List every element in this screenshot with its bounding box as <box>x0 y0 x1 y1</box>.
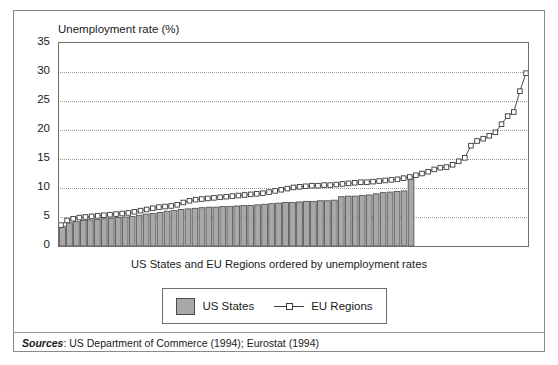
bar-us-state <box>373 194 379 246</box>
bar-us-state <box>297 202 303 246</box>
marker-eu-region <box>359 180 364 185</box>
marker-eu-region <box>273 189 278 194</box>
marker-eu-region <box>248 192 253 197</box>
chart-title: Unemployment rate (%) <box>58 23 179 35</box>
bar-us-state <box>192 208 198 246</box>
marker-eu-region <box>499 122 504 127</box>
bar-us-state <box>164 211 170 246</box>
bar-us-state <box>304 201 310 246</box>
bar-us-state <box>108 218 114 246</box>
bar-us-state <box>394 191 400 246</box>
chart-legend: US States EU Regions <box>162 288 387 324</box>
marker-eu-region <box>450 163 455 168</box>
marker-eu-region <box>346 181 351 186</box>
marker-eu-region <box>230 194 235 199</box>
y-tick-label: 0 <box>44 239 50 251</box>
y-tick-label: 30 <box>37 65 50 77</box>
marker-eu-region <box>352 180 357 185</box>
sources-label: Sources <box>22 337 63 349</box>
marker-eu-region <box>59 223 63 228</box>
bar-us-state <box>241 205 247 246</box>
bar-us-state <box>234 206 240 246</box>
marker-eu-region <box>310 183 315 188</box>
marker-eu-region <box>95 214 100 219</box>
marker-eu-region <box>77 215 82 220</box>
bar-us-state <box>408 178 414 246</box>
plot-wrapper <box>58 42 529 247</box>
y-tick-label: 35 <box>37 36 50 48</box>
bar-us-state <box>227 207 233 246</box>
marker-eu-region <box>395 177 400 182</box>
marker-eu-region <box>199 197 204 202</box>
x-axis-label: US States and EU Regions ordered by unem… <box>14 258 544 270</box>
bar-us-state <box>171 211 177 246</box>
marker-eu-region <box>524 71 528 76</box>
marker-eu-region <box>175 203 180 208</box>
marker-eu-region <box>334 182 339 187</box>
bar-us-state <box>178 209 184 246</box>
marker-eu-region <box>481 136 486 141</box>
marker-eu-region <box>144 207 149 212</box>
bar-us-state <box>101 219 107 246</box>
marker-eu-region <box>224 194 229 199</box>
bar-us-state <box>129 216 135 246</box>
bar-us-state <box>255 205 261 246</box>
marker-eu-region <box>291 185 296 190</box>
marker-eu-region <box>407 175 412 180</box>
bar-us-state <box>143 214 149 246</box>
bar-us-state <box>67 223 73 246</box>
marker-eu-region <box>242 193 247 198</box>
y-tick-label: 15 <box>37 152 50 164</box>
bar-us-state <box>380 193 386 246</box>
bar-us-state <box>81 220 87 246</box>
legend-label-us-states: US States <box>202 300 254 312</box>
sources-text: : US Department of Commerce (1994); Euro… <box>63 337 319 349</box>
bar-us-state <box>220 207 226 246</box>
marker-eu-region <box>89 214 94 219</box>
bar-us-state <box>94 219 100 246</box>
bar-us-state <box>290 203 296 247</box>
marker-eu-region <box>414 173 419 178</box>
marker-eu-region <box>163 204 168 209</box>
marker-eu-region <box>181 200 186 205</box>
marker-eu-region <box>236 193 241 198</box>
bar-us-state <box>401 191 407 246</box>
bar-us-state <box>206 207 212 246</box>
bar-us-state <box>366 195 372 246</box>
marker-eu-region <box>83 215 88 220</box>
marker-eu-region <box>371 179 376 184</box>
marker-eu-region <box>126 211 131 216</box>
bar-us-state <box>311 201 317 246</box>
marker-eu-region <box>493 130 498 135</box>
marker-eu-region <box>254 192 259 197</box>
bar-us-state <box>331 200 337 246</box>
marker-eu-region <box>65 218 70 223</box>
bar-us-state <box>318 201 324 246</box>
marker-eu-region <box>212 196 217 201</box>
marker-eu-region <box>150 206 155 211</box>
legend-item-eu-regions: EU Regions <box>274 300 372 312</box>
bar-us-state <box>60 226 66 246</box>
marker-eu-region <box>377 179 382 184</box>
marker-eu-region <box>279 187 284 192</box>
marker-eu-region <box>267 190 272 195</box>
marker-eu-region <box>193 197 198 202</box>
marker-eu-region <box>322 183 327 188</box>
bar-us-state <box>352 196 358 246</box>
marker-eu-region <box>108 212 113 217</box>
marker-eu-region <box>187 198 192 203</box>
bar-us-state <box>185 209 191 246</box>
y-axis-tick-labels: 05101520253035 <box>14 42 56 247</box>
bar-us-state <box>88 220 94 246</box>
bar-us-state <box>136 215 142 246</box>
marker-eu-region <box>157 205 162 210</box>
legend-label-eu-regions: EU Regions <box>311 300 372 312</box>
bar-us-state <box>74 222 80 246</box>
marker-eu-region <box>511 110 516 115</box>
marker-eu-region <box>401 176 406 181</box>
bar-us-state <box>283 203 289 247</box>
marker-eu-region <box>169 204 174 209</box>
bar-us-state <box>276 203 282 246</box>
bar-us-state <box>157 212 163 246</box>
marker-eu-region <box>340 182 345 187</box>
